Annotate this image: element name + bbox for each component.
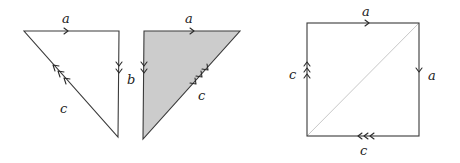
triangle-middle: a c [141, 11, 240, 139]
label-left-c: c [289, 67, 297, 82]
diagram-canvas: a b c a c [0, 0, 460, 163]
label-right-a: a [428, 68, 436, 83]
label-a: a [62, 11, 70, 26]
triangle-left-outline [24, 31, 119, 137]
arrow-c-triple-icon [53, 65, 70, 84]
label-c: c [198, 88, 206, 103]
triangle-middle-shape [143, 31, 240, 139]
triangle-left: a b c [24, 11, 135, 137]
label-a: a [185, 11, 193, 26]
label-top-a: a [362, 4, 370, 19]
square-diagonal [307, 23, 419, 136]
label-bottom-c: c [360, 143, 368, 158]
label-c: c [60, 101, 68, 116]
label-b: b [127, 72, 135, 87]
square-right: a a c c [289, 4, 436, 158]
